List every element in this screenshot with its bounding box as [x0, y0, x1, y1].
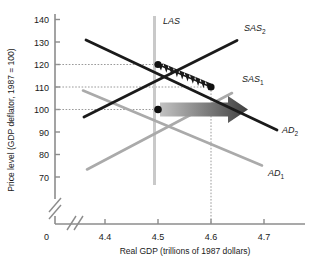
label-sas1-text: SAS — [242, 74, 260, 84]
economics-chart: 140 130 120 110 100 90 80 70 0 4.4 4.5 4… — [0, 0, 314, 261]
label-ad1-sub: 1 — [281, 173, 285, 180]
x-tick-label-4.5: 4.5 — [152, 232, 165, 242]
y-tick-label-100: 100 — [34, 105, 49, 115]
label-las: LAS — [163, 16, 180, 26]
x-axis-break-icon — [67, 216, 83, 230]
x-tick-label-4.4: 4.4 — [99, 232, 112, 242]
y-tick-labels: 140 130 120 110 100 90 80 70 0 — [34, 15, 49, 242]
y-tick-label-90: 90 — [39, 128, 49, 138]
label-sas2-text: SAS — [244, 23, 262, 33]
label-ad2-text: AD — [281, 125, 295, 135]
label-ad1-text: AD — [267, 168, 281, 178]
point-short-run-equilibrium — [207, 83, 214, 90]
x-tick-label-4.7: 4.7 — [258, 232, 271, 242]
label-ad1: AD1 — [267, 168, 285, 180]
y-tick-label-140: 140 — [34, 15, 49, 25]
chart-svg: 140 130 120 110 100 90 80 70 0 4.4 4.5 4… — [0, 0, 314, 261]
origin-label: 0 — [44, 232, 49, 242]
y-tick-label-70: 70 — [39, 173, 49, 183]
y-tick-label-80: 80 — [39, 150, 49, 160]
label-sas1-sub: 1 — [260, 79, 264, 86]
y-tick-label-120: 120 — [34, 60, 49, 70]
label-ad2: AD2 — [281, 125, 299, 137]
label-sas2: SAS2 — [244, 23, 266, 35]
label-sas2-sub: 2 — [262, 28, 266, 35]
x-axis-title: Real GDP (trillions of 1987 dollars) — [120, 246, 251, 256]
y-tick-label-130: 130 — [34, 38, 49, 48]
x-tick-labels: 4.4 4.5 4.6 4.7 — [99, 232, 271, 242]
label-ad2-sub: 2 — [295, 130, 299, 137]
x-tick-label-4.6: 4.6 — [205, 232, 218, 242]
y-tick-label-110: 110 — [35, 83, 49, 93]
point-initial-equilibrium — [154, 106, 162, 114]
y-axis-break-icon — [49, 198, 61, 219]
label-sas1: SAS1 — [242, 74, 264, 86]
point-long-run-equilibrium — [154, 61, 161, 68]
y-axis-title: Price level (GDP deflator, 1987 = 100) — [6, 48, 16, 191]
